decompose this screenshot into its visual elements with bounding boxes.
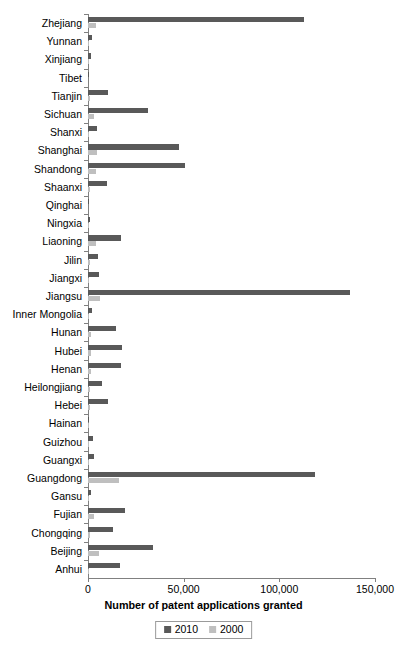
category-label: Tianjin xyxy=(51,90,82,101)
bar-row: Guangxi xyxy=(88,451,375,469)
y-axis-tick xyxy=(84,396,88,397)
y-axis-tick xyxy=(84,505,88,506)
y-axis-tick xyxy=(84,414,88,415)
bar-2010 xyxy=(88,53,91,58)
bar-2000 xyxy=(88,114,94,119)
y-axis-tick xyxy=(84,542,88,543)
bar-row: Shaanxi xyxy=(88,178,375,196)
bar-2000 xyxy=(88,350,91,355)
bar-row: Anhui xyxy=(88,560,375,578)
bar-row: Beijing xyxy=(88,542,375,560)
y-axis-tick xyxy=(84,269,88,270)
bar-2010 xyxy=(88,345,122,350)
y-axis-tick xyxy=(84,523,88,524)
bar-row: Hunan xyxy=(88,323,375,341)
bar-2010 xyxy=(88,326,116,331)
category-label: Jilin xyxy=(64,254,82,265)
bar-2010 xyxy=(88,235,121,240)
y-axis-tick xyxy=(84,432,88,433)
bar-2010 xyxy=(88,363,121,368)
y-axis-tick xyxy=(84,69,88,70)
bar-row: Jiangsu xyxy=(88,287,375,305)
bar-2010 xyxy=(88,490,91,495)
category-label: Beijing xyxy=(50,545,82,556)
category-label: Anhui xyxy=(55,563,82,574)
bar-2010 xyxy=(88,308,92,313)
bar-2010 xyxy=(88,90,108,95)
category-label: Fujian xyxy=(53,509,82,520)
y-axis-tick xyxy=(84,105,88,106)
y-axis-tick xyxy=(84,487,88,488)
bar-2010 xyxy=(88,545,153,550)
bar-row: Chongqing xyxy=(88,523,375,541)
y-axis-tick xyxy=(84,214,88,215)
bar-2000 xyxy=(88,478,119,483)
bar-2010 xyxy=(88,272,99,277)
x-axis-tick-label: 100,000 xyxy=(260,583,298,595)
bar-row: Liaoning xyxy=(88,232,375,250)
y-axis-tick xyxy=(84,87,88,88)
category-label: Tibet xyxy=(59,72,82,83)
category-label: Hubei xyxy=(55,345,82,356)
bar-row: Yunnan xyxy=(88,32,375,50)
y-axis-tick xyxy=(84,160,88,161)
legend-swatch-icon xyxy=(209,626,216,633)
bar-2010 xyxy=(88,508,125,513)
category-label: Inner Mongolia xyxy=(13,309,82,320)
y-axis-tick xyxy=(84,178,88,179)
bar-row: Henan xyxy=(88,360,375,378)
bar-2000 xyxy=(88,460,89,465)
bar-2010 xyxy=(88,399,108,404)
x-axis-tick xyxy=(279,578,280,582)
bar-2010 xyxy=(88,108,148,113)
bar-row: Shandong xyxy=(88,160,375,178)
bar-2010 xyxy=(88,35,92,40)
category-label: Jiangsu xyxy=(46,290,82,301)
bar-row: Fujian xyxy=(88,505,375,523)
y-axis-tick xyxy=(84,305,88,306)
category-label: Qinghai xyxy=(46,200,82,211)
legend-label: 2000 xyxy=(220,624,243,635)
bar-row: Hubei xyxy=(88,341,375,359)
category-label: Heilongjiang xyxy=(24,381,82,392)
category-label: Guangdong xyxy=(27,472,82,483)
chart-legend: 20102000 xyxy=(155,621,253,639)
y-axis-tick xyxy=(84,451,88,452)
bar-2010 xyxy=(88,163,185,168)
y-axis-tick xyxy=(84,469,88,470)
category-label: Xinjiang xyxy=(45,54,82,65)
x-axis-tick xyxy=(184,578,185,582)
y-axis-tick xyxy=(84,360,88,361)
y-axis-tick xyxy=(84,196,88,197)
category-label: Chongqing xyxy=(31,527,82,538)
x-axis-tick xyxy=(88,578,89,582)
bar-2000 xyxy=(88,532,90,537)
legend-item: 2000 xyxy=(209,624,243,635)
bar-2000 xyxy=(88,260,90,265)
bar-row: Shanxi xyxy=(88,123,375,141)
bar-2010 xyxy=(88,381,102,386)
x-axis-tick-label: 0 xyxy=(85,583,91,595)
bar-2000 xyxy=(88,96,90,101)
y-axis-tick xyxy=(84,560,88,561)
category-label: Guizhou xyxy=(43,436,82,447)
category-label: Yunnan xyxy=(46,36,82,47)
category-label: Shanghai xyxy=(38,145,82,156)
bar-2010 xyxy=(88,254,98,259)
bar-2010 xyxy=(88,436,93,441)
bar-2000 xyxy=(88,296,100,301)
bar-2000 xyxy=(88,405,90,410)
x-axis-tick-label: 50,000 xyxy=(168,583,200,595)
bar-2010 xyxy=(88,290,350,295)
y-axis-tick xyxy=(84,251,88,252)
bar-row: Gansu xyxy=(88,487,375,505)
bar-2000 xyxy=(88,132,89,137)
y-axis-tick xyxy=(84,32,88,33)
bar-2000 xyxy=(88,569,89,574)
bar-2010 xyxy=(88,144,179,149)
x-axis-tick-label: 150,000 xyxy=(356,583,394,595)
category-label: Gansu xyxy=(51,491,82,502)
x-axis-line xyxy=(88,578,376,579)
bar-row: Sichuan xyxy=(88,105,375,123)
bar-2000 xyxy=(88,41,89,46)
